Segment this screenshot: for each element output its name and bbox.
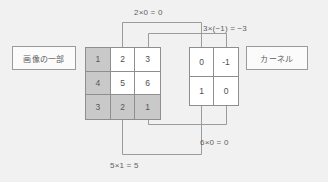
annotation-right-product: 3×(−1) = −3 bbox=[203, 24, 247, 33]
connector-wires bbox=[0, 0, 328, 182]
annotation-top-product: 2×0 = 0 bbox=[134, 8, 163, 17]
kernel-cell-r1c2: -1 bbox=[214, 48, 238, 77]
image-cell-r3c2: 2 bbox=[111, 95, 136, 119]
image-cell-r3c1: 3 bbox=[86, 95, 111, 119]
kernel-cell-r2c1: 1 bbox=[190, 77, 214, 106]
image-cell-r1c2: 2 bbox=[111, 48, 136, 72]
kernel-cell-r1c1: 0 bbox=[190, 48, 214, 77]
image-patch-grid: 1 2 3 4 5 6 3 2 1 bbox=[85, 47, 161, 120]
image-patch-label: 画像の一部 bbox=[12, 46, 76, 70]
image-cell-r2c3: 6 bbox=[135, 72, 160, 96]
image-cell-r1c3: 3 bbox=[135, 48, 160, 72]
image-cell-r3c3: 1 bbox=[135, 95, 160, 119]
kernel-cell-r2c2: 0 bbox=[214, 77, 238, 106]
image-cell-r2c2: 5 bbox=[111, 72, 136, 96]
kernel-label: カーネル bbox=[246, 46, 308, 70]
kernel-grid: 0 -1 1 0 bbox=[189, 47, 239, 106]
wire-3-to-k01 bbox=[149, 34, 227, 48]
annotation-lower-right-product: 6×0 = 0 bbox=[200, 138, 229, 147]
wire-2-to-k00 bbox=[123, 23, 202, 48]
annotation-bottom-product: 5×1 = 5 bbox=[110, 161, 139, 170]
image-cell-r2c1: 4 bbox=[86, 72, 111, 96]
image-cell-r1c1: 1 bbox=[86, 48, 111, 72]
diagram-canvas: 画像の一部 カーネル 1 2 3 4 5 6 3 2 1 0 -1 1 0 2×… bbox=[0, 0, 328, 182]
